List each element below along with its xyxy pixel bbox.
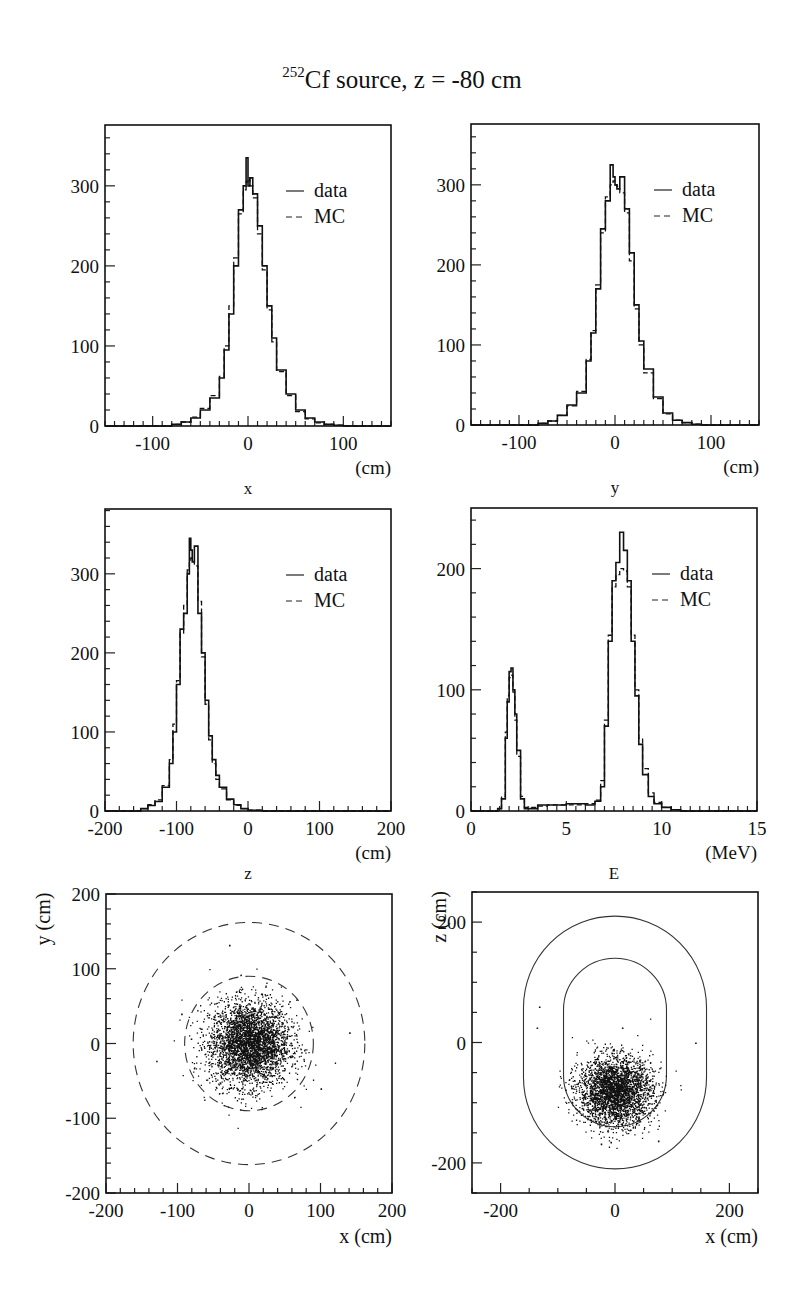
series-mc — [471, 181, 759, 425]
chart-E: 0510150100200dataMC(MeV)E — [437, 508, 767, 883]
x-tick-label: -200 — [483, 1200, 518, 1221]
x-axis-unit: (cm) — [355, 457, 391, 479]
y-tick-label: 200 — [71, 643, 100, 664]
x-axis-unit: (MeV) — [705, 842, 757, 864]
y-axis-label: y (cm) — [32, 893, 55, 946]
y-tick-label: 100 — [72, 959, 101, 980]
chart-y: -10001000100200300dataMC(cm)y — [437, 124, 760, 497]
series-data — [471, 532, 757, 811]
boundary-stadium — [523, 916, 706, 1169]
y-tick-label: 100 — [71, 336, 100, 357]
x-tick-label: 100 — [697, 432, 726, 453]
x-tick-label: 100 — [306, 1200, 335, 1221]
legend-label-data: data — [314, 179, 347, 201]
plot-frame — [472, 892, 758, 1193]
y-tick-label: 100 — [71, 722, 100, 743]
plot-frame — [471, 124, 759, 425]
x-axis-label: E — [609, 864, 619, 883]
legend-label-mc: MC — [314, 205, 345, 227]
x-tick-label: 0 — [610, 432, 620, 453]
plot-frame — [471, 508, 757, 811]
x-tick-label: 10 — [652, 818, 671, 839]
y-tick-label: 200 — [72, 884, 101, 905]
y-axis-label: z (cm) — [428, 891, 451, 943]
x-tick-label: 5 — [562, 818, 572, 839]
y-tick-label: 0 — [456, 415, 466, 436]
x-axis-label: y — [611, 478, 620, 497]
x-axis-unit: (cm) — [723, 456, 759, 478]
chart-x: -10001000100200300dataMC(cm)x — [71, 125, 392, 498]
x-tick-label: 0 — [243, 818, 253, 839]
scatter-points — [537, 1006, 697, 1149]
x-axis-label: x (cm) — [339, 1225, 392, 1248]
x-tick-label: -100 — [160, 1200, 195, 1221]
y-tick-label: -200 — [65, 1183, 100, 1204]
figure-canvas: -10001000100200300dataMC(cm)x-1000100010… — [0, 0, 804, 1298]
legend-label-data: data — [680, 562, 713, 584]
y-tick-label: 300 — [437, 175, 466, 196]
x-axis-label: x — [244, 479, 253, 498]
x-tick-label: 0 — [466, 818, 476, 839]
series-mc — [105, 558, 391, 811]
plot-frame — [105, 509, 391, 811]
x-axis-label: x (cm) — [705, 1225, 758, 1248]
x-tick-label: 15 — [748, 818, 767, 839]
x-tick-label: -100 — [159, 818, 194, 839]
series-data — [471, 165, 759, 425]
y-tick-label: 300 — [71, 176, 100, 197]
y-tick-label: -100 — [65, 1108, 100, 1129]
x-axis-unit: (cm) — [355, 842, 391, 864]
x-tick-label: -100 — [502, 432, 537, 453]
series-data — [105, 158, 391, 426]
x-tick-label: 0 — [243, 433, 253, 454]
legend-label-data: data — [314, 563, 347, 585]
chart-xz: -2000200-2000200x (cm)z (cm) — [428, 891, 758, 1248]
legend-label-mc: MC — [682, 204, 713, 226]
y-tick-label: 300 — [71, 564, 100, 585]
x-tick-label: 100 — [329, 433, 358, 454]
x-tick-label: 200 — [715, 1200, 744, 1221]
chart-xy: -200-1000100200-200-1000100200x (cm)y (c… — [32, 884, 406, 1248]
y-tick-label: 200 — [437, 559, 466, 580]
legend-label-mc: MC — [314, 589, 345, 611]
series-mc — [105, 178, 391, 426]
legend-label-data: data — [682, 178, 715, 200]
legend-label-mc: MC — [680, 588, 711, 610]
y-tick-label: 0 — [456, 801, 466, 822]
y-tick-label: 100 — [437, 335, 466, 356]
x-tick-label: 100 — [305, 818, 334, 839]
y-tick-label: 200 — [71, 256, 100, 277]
x-tick-label: 200 — [377, 818, 406, 839]
y-tick-label: 200 — [437, 255, 466, 276]
x-axis-label: z — [244, 864, 252, 883]
y-tick-label: 0 — [90, 416, 100, 437]
x-tick-label: 0 — [610, 1200, 620, 1221]
x-tick-label: 200 — [378, 1200, 407, 1221]
y-tick-label: -200 — [431, 1153, 466, 1174]
series-data — [105, 538, 391, 811]
y-tick-label: 0 — [91, 1034, 101, 1055]
y-tick-label: 0 — [90, 801, 100, 822]
chart-z: -200-10001002000100200300dataMC(cm)z — [71, 509, 406, 883]
y-tick-label: 100 — [437, 680, 466, 701]
y-tick-label: 0 — [457, 1033, 467, 1054]
x-tick-label: 0 — [244, 1200, 254, 1221]
x-tick-label: -100 — [135, 433, 170, 454]
